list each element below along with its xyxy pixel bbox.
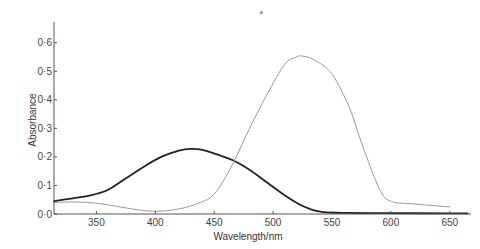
x-tick-label: 650 [441,217,458,228]
plot-area [54,56,468,214]
x-tick-label: 350 [88,217,105,228]
y-tick-label: 0·3 [38,123,53,134]
y-tick-label: 0·5 [38,66,53,77]
x-tick-label: 550 [324,217,341,228]
x-tick-label: 450 [206,217,223,228]
x-tick-label: 500 [265,217,282,228]
y-tick-label: 0·1 [38,180,53,191]
series-light-line [54,56,450,211]
y-tick-label: 0·4 [38,94,53,105]
y-tick-label: 0·2 [38,151,53,162]
annotations [260,11,263,14]
y-tick-label: 0·6 [38,37,53,48]
x-axis-label: Wavelength/nm [213,231,282,242]
stray-dot-marker [260,11,263,14]
y-tick-label: 0·0 [38,209,53,220]
x-tick-label: 400 [147,217,164,228]
absorbance-spectrum-chart: 0·00·10·20·30·40·50·6 350400450500550600… [0,0,480,249]
x-tick-label: 600 [383,217,400,228]
y-axis-label: Absorbance [27,93,38,147]
